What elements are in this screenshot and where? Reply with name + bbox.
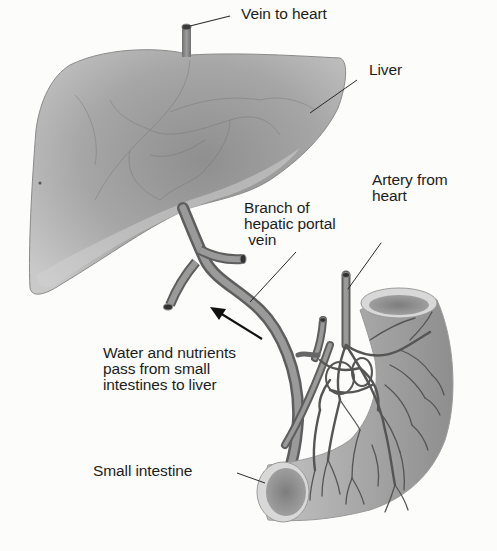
vein-to-heart [182,16,230,57]
artery-leader-line [348,243,381,289]
label-branch-hepatic-portal-vein: Branch of hepatic portal vein [244,200,336,248]
label-nutrient-flow: Water and nutrients pass from small inte… [103,345,236,393]
label-liver: Liver [369,62,402,78]
label-small-intestine: Small intestine [93,463,192,479]
liver-intestine-diagram [0,0,497,551]
label-vein-to-heart: Vein to heart [241,6,327,22]
liver [29,50,345,294]
label-artery-from-heart: Artery from heart [372,172,448,204]
vein-to-heart-leader-line [190,16,230,26]
portal-vein-leader-line [250,252,296,302]
